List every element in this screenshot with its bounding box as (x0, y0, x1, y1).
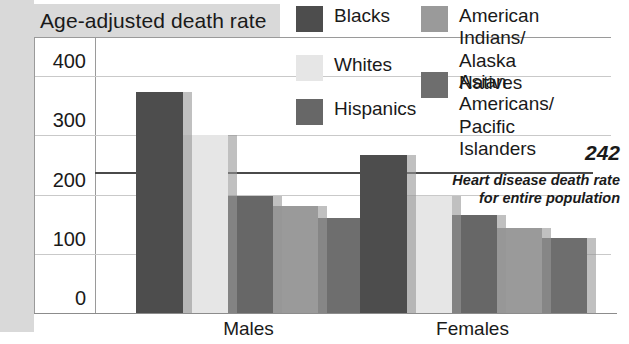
legend-swatch (296, 55, 323, 81)
legend-label: Whites (334, 54, 392, 76)
legend-label: Hispanics (334, 98, 416, 120)
bar-shadow (228, 135, 237, 313)
bar-shadow (587, 238, 596, 313)
legend: BlacksWhitesHispanicsAmerican Indians/ A… (0, 0, 629, 140)
bar-shadow (273, 196, 282, 313)
x-axis-label: Females (360, 318, 585, 340)
x-axis-line (34, 313, 617, 314)
legend-swatch (421, 6, 448, 32)
bar-shadow (497, 215, 506, 313)
chart-canvas: Age-adjusted death rate 4003002001000 24… (0, 0, 629, 344)
bar-shadow (183, 92, 192, 313)
bar (360, 155, 407, 313)
bar-face (136, 92, 183, 313)
bar-shadow (407, 155, 416, 313)
bar-shadow (452, 196, 461, 313)
bar-face (360, 155, 407, 313)
x-axis-label: Males (136, 318, 361, 340)
legend-label: Blacks (334, 5, 390, 27)
bar-shadow (318, 206, 327, 313)
legend-swatch (296, 99, 323, 125)
legend-swatch (296, 6, 323, 32)
reference-description: Heart disease death rate for entire popu… (452, 172, 620, 207)
bar-shadow (542, 228, 551, 313)
legend-label: Asian Americans/ Pacific Islanders (459, 71, 554, 161)
bar (136, 92, 183, 313)
legend-swatch (421, 72, 448, 98)
